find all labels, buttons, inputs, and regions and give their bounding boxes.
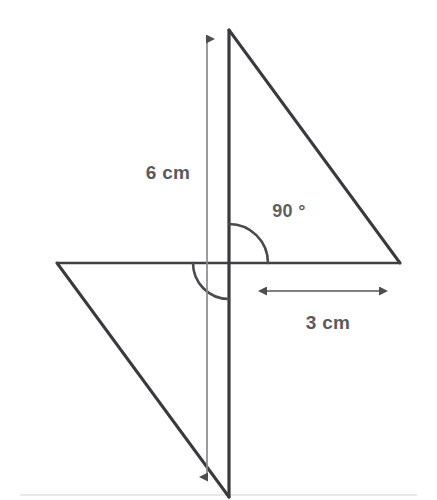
right-angle-label: 90 ° — [272, 201, 305, 221]
figure-canvas: 6 cm 3 cm 90 ° — [0, 0, 437, 500]
base-dimension-label: 3 cm — [306, 312, 351, 333]
height-dimension-label: 6 cm — [146, 162, 191, 183]
geometry-diagram: 6 cm 3 cm 90 ° — [0, 0, 437, 500]
canvas-background — [0, 0, 437, 500]
